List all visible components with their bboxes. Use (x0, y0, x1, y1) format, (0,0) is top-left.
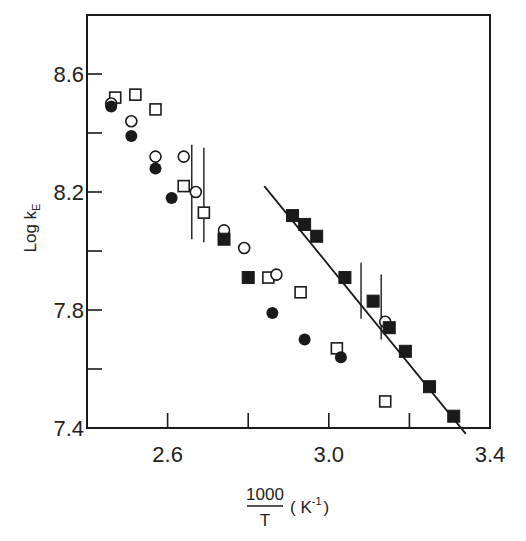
x-tick-label: 3.4 (475, 442, 506, 467)
data-point (335, 351, 347, 363)
y-tick-label: 8.6 (53, 62, 84, 87)
data-point (178, 181, 189, 192)
data-point (150, 151, 161, 162)
svg-text:T: T (260, 511, 270, 530)
data-point (198, 207, 209, 218)
data-point (287, 210, 299, 222)
data-point (239, 243, 250, 254)
data-points (105, 89, 460, 422)
svg-text:1000: 1000 (246, 485, 284, 504)
y-axis-tick-labels: 7.47.88.28.6 (53, 62, 84, 441)
y-axis-label: Log kE (21, 204, 42, 253)
data-point (383, 322, 395, 334)
data-point (299, 218, 311, 230)
y-tick-label: 7.8 (53, 298, 84, 323)
data-point (311, 230, 323, 242)
data-point (130, 89, 141, 100)
series-open-circles (106, 98, 391, 327)
data-point (125, 130, 137, 142)
data-point (295, 287, 306, 298)
x-tick-label: 2.6 (152, 442, 183, 467)
data-point (448, 410, 460, 422)
data-point (299, 334, 311, 346)
x-axis-label: 1000 T ( K-1) (246, 485, 329, 530)
data-point (424, 381, 436, 393)
data-point (367, 295, 379, 307)
y-tick-label: 8.2 (53, 180, 84, 205)
data-point (266, 307, 278, 319)
data-point (242, 272, 254, 284)
data-point (150, 104, 161, 115)
series-filled-squares (218, 210, 460, 423)
y-axis-ticks (87, 74, 102, 369)
data-point (399, 345, 411, 357)
data-point (105, 100, 117, 112)
svg-text:( K-1): ( K-1) (290, 495, 329, 517)
arrhenius-plot: 2.63.03.4 7.47.88.28.6 Log kE 1000 T ( K… (0, 0, 526, 541)
x-tick-label: 3.0 (314, 442, 345, 467)
data-point (150, 162, 162, 174)
data-point (218, 233, 230, 245)
fit-line (264, 186, 466, 434)
data-point (339, 272, 351, 284)
x-axis-ticks (168, 413, 410, 428)
data-point (166, 192, 178, 204)
data-point (126, 116, 137, 127)
y-tick-label: 7.4 (53, 416, 84, 441)
data-point (271, 269, 282, 280)
svg-text:Log kE: Log kE (21, 204, 42, 253)
x-axis-tick-labels: 2.63.03.4 (152, 442, 505, 467)
data-point (190, 187, 201, 198)
data-point (178, 151, 189, 162)
data-point (380, 396, 391, 407)
